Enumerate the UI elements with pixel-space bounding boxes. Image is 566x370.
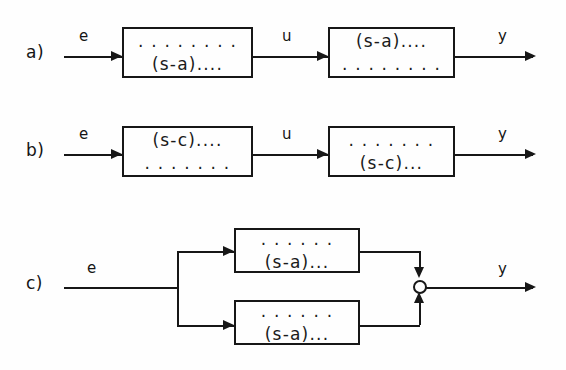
block-c-top: . . . . . . (s-a)... [234, 228, 360, 273]
signal-label-b-input: e [79, 127, 88, 142]
arrowhead-b-middle-icon [317, 149, 328, 159]
row-label-a: a) [26, 44, 44, 61]
wire-c-input [64, 287, 179, 289]
block-b-2: . . . . . . . (s-c)... [328, 126, 455, 177]
block-b-1: (s-c).... . . . . . . . [122, 126, 253, 177]
arrowhead-c-sum-top-icon [414, 267, 424, 278]
arrowhead-a-input-icon [111, 51, 122, 61]
denominator: (s-c)... [358, 155, 425, 172]
signal-label-b-middle: u [282, 127, 292, 142]
arrowhead-c-output-icon [525, 282, 536, 292]
row-label-c: c) [26, 275, 43, 292]
numerator: . . . . . . . [347, 132, 437, 149]
arrowhead-b-output-icon [525, 149, 536, 159]
arrowhead-c-bottom-icon [223, 320, 234, 330]
numerator: . . . . . . . . [136, 33, 239, 50]
block-c-bottom: . . . . . . (s-a)... [234, 300, 360, 345]
arrowhead-a-middle-icon [317, 51, 328, 61]
signal-label-a-output: y [498, 29, 507, 44]
signal-label-a-middle: u [282, 29, 292, 44]
wire-c-bottom-to-sum [360, 325, 420, 327]
denominator: . . . . . . . [143, 155, 233, 172]
transfer-function-a-1: . . . . . . . . (s-a).... [124, 33, 251, 73]
denominator: (s-a).... [150, 56, 225, 73]
figure-canvas: a) e . . . . . . . . (s-a).... u (s-a)..… [0, 0, 566, 370]
wire-c-bottom-upleg [419, 303, 421, 325]
transfer-function-c-bottom: . . . . . . (s-a)... [236, 303, 358, 343]
wire-c-split-vertical [177, 251, 179, 327]
transfer-function-a-2: (s-a).... . . . . . . . . [330, 33, 453, 73]
wire-b-output [455, 154, 533, 156]
arrowhead-b-input-icon [111, 149, 122, 159]
wire-c-output [426, 287, 533, 289]
denominator: . . . . . . . . [340, 56, 443, 73]
block-a-2: (s-a).... . . . . . . . . [328, 27, 455, 78]
transfer-function-c-top: . . . . . . (s-a)... [236, 231, 358, 271]
signal-label-a-input: e [79, 29, 88, 44]
signal-label-c-input: e [87, 261, 96, 276]
wire-a-output [455, 56, 533, 58]
denominator: (s-a)... [263, 254, 332, 271]
signal-label-b-output: y [498, 127, 507, 142]
denominator: (s-a)... [263, 326, 332, 343]
signal-label-c-output: y [498, 262, 507, 277]
transfer-function-b-1: (s-c).... . . . . . . . [124, 132, 251, 172]
block-a-1: . . . . . . . . (s-a).... [122, 27, 253, 78]
numerator: (s-c).... [150, 132, 224, 149]
summing-junction-c [413, 280, 427, 294]
wire-c-top-to-sum [360, 251, 420, 253]
numerator: (s-a).... [354, 33, 429, 50]
row-label-b: b) [26, 142, 44, 159]
arrowhead-a-output-icon [525, 51, 536, 61]
numerator: . . . . . . [259, 303, 336, 320]
arrowhead-c-top-icon [223, 246, 234, 256]
numerator: . . . . . . [259, 231, 336, 248]
transfer-function-b-2: . . . . . . . (s-c)... [330, 132, 453, 172]
